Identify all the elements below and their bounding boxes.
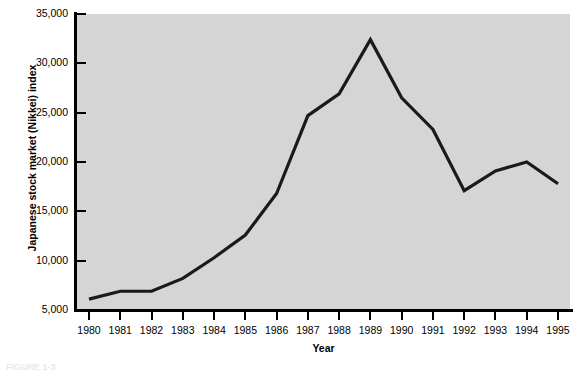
figure-caption: FIGURE 1-3 (6, 362, 56, 371)
x-axis-title: Year (77, 342, 570, 354)
data-series-layer (0, 0, 582, 371)
nikkei-index-line (89, 40, 558, 300)
chart-figure: Japanese stock market (Nikkei) index 5,0… (0, 0, 582, 371)
